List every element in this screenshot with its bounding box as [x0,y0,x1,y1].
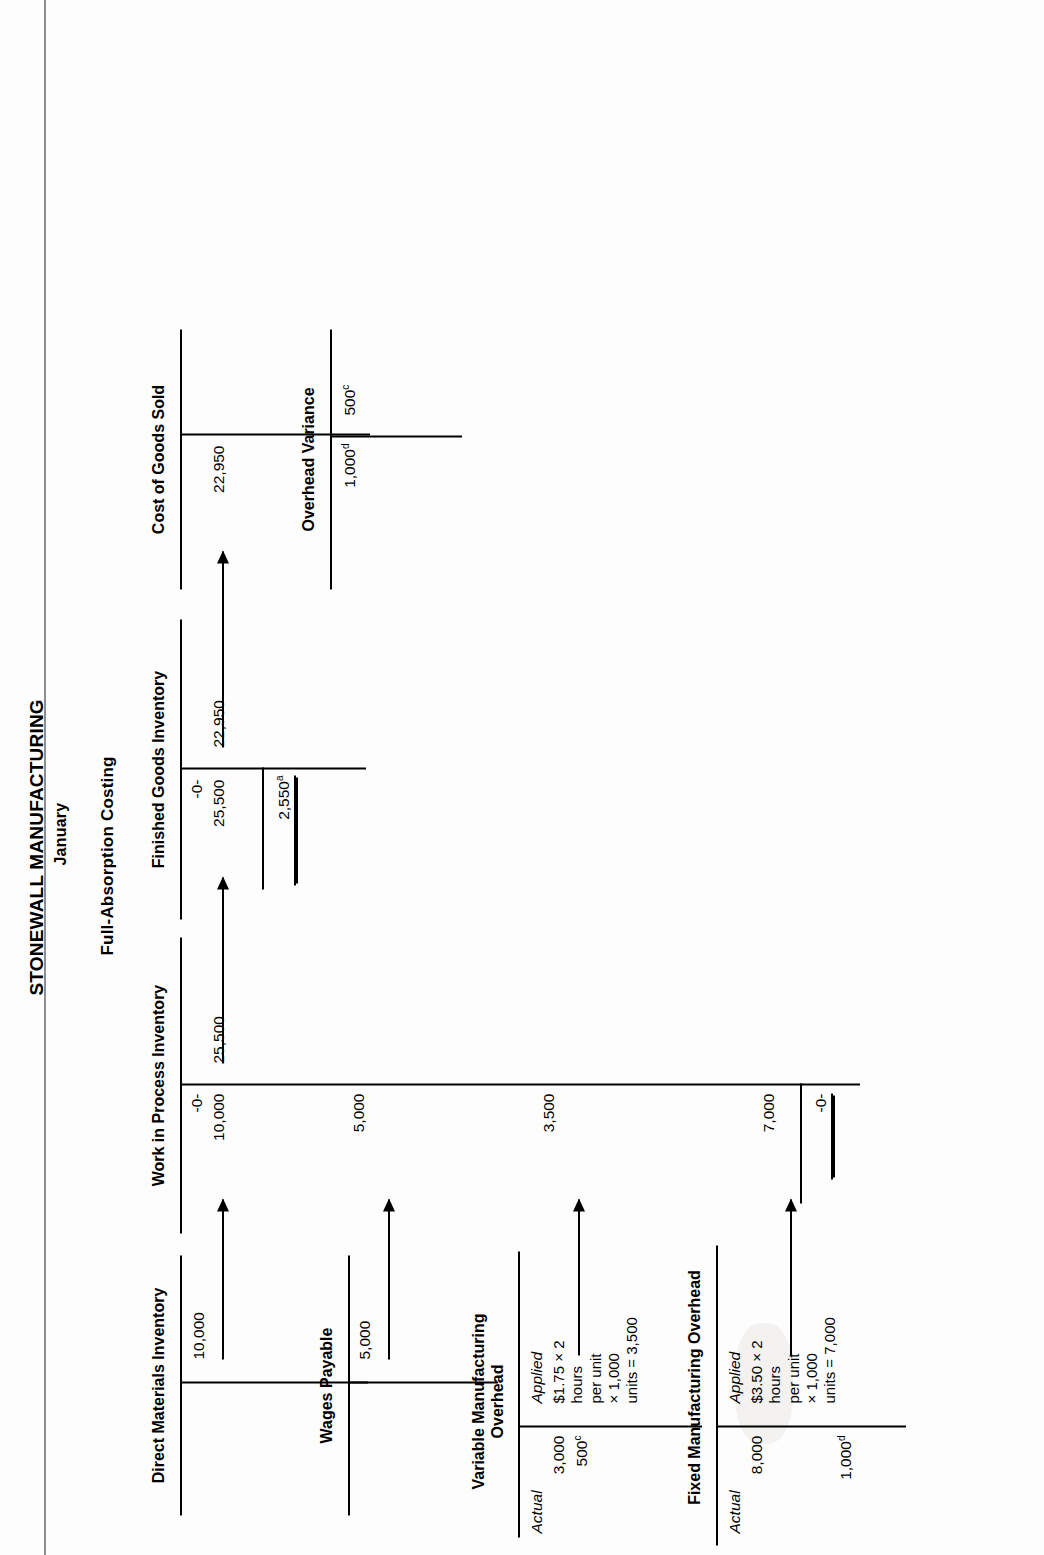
fmoh-variance-value: 1,000 [837,1441,854,1480]
wages-credit-amount: 5,000 [356,1320,374,1359]
flow-arrow-vmoh-to-wip [578,1199,580,1355]
wip-ending-balance: -0- [812,1093,833,1179]
ov-t-stem [330,435,462,437]
vmoh-actual-variance: 500c [572,1435,591,1533]
vmoh-actual-variance-value: 500 [573,1440,590,1466]
fg-ending-balance-note: a [274,775,285,781]
fg-credit-cogs: 22,950 [210,700,228,747]
account-title-cost-of-goods-sold: Cost of Goods Sold [150,329,169,589]
wip-debit-variable-oh: 3,500 [540,1093,558,1179]
fmoh-applied-detail: $3.50 × 2 hours per unit × 1,000 units =… [748,1253,839,1403]
fg-ending-balance: 2,550a [274,775,296,885]
account-title-finished-goods: Finished Goods Inventory [150,619,169,919]
flow-arrow-wages-to-wip [388,1199,390,1359]
flow-arrow-materials-to-wip [222,1199,224,1359]
fmoh-t-stem [716,1425,906,1427]
wip-balance-rule [800,1083,802,1203]
account-title-wages-payable: Wages Payable [318,1255,337,1515]
ov-credit-amount: 500c [340,384,359,415]
fmoh-actual-label: Actual [726,1490,744,1533]
flow-arrow-fmoh-to-wip [790,1199,792,1355]
wages-t-crossbar [348,1255,350,1515]
page-canvas: STONEWALL MANUFACTURING January Full-Abs… [0,0,1044,1555]
vmoh-t-crossbar [518,1251,520,1537]
account-title-variable-moh: Variable Manufacturing Overhead [470,1265,508,1537]
fg-ending-balance-value: 2,550 [275,781,292,820]
dm-credit-amount: 10,000 [190,1312,208,1359]
vmoh-actual-amount: 3,000 [550,1435,568,1533]
diagram-canvas: STONEWALL MANUFACTURING January Full-Abs… [0,0,1044,1555]
dm-t-crossbar [180,1255,182,1515]
account-title-work-in-process: Work in Process Inventory [150,937,169,1233]
wip-credit-transfer: 25,500 [210,1016,228,1063]
costing-method-title: Full-Absorption Costing [98,756,118,955]
vmoh-actual-label: Actual [528,1490,546,1533]
ov-debit-note: d [340,443,351,449]
company-title: STONEWALL MANUFACTURING [26,699,48,995]
flow-arrow-wip-to-fg [222,877,224,1063]
fg-t-stem [180,767,366,769]
fmoh-variance-amount: 1,000d [836,1435,855,1533]
ov-debit-amount: 1,000d [340,443,359,543]
cogs-t-crossbar [180,329,182,589]
vmoh-applied-detail: $1.75 × 2 hours per unit × 1,000 units =… [550,1253,641,1403]
fmoh-actual-amount: 8,000 [748,1435,766,1533]
dm-t-stem [180,1381,368,1383]
ov-credit-value: 500 [341,389,358,415]
period-subtitle: January [52,802,70,865]
ov-debit-value: 1,000 [341,449,358,488]
wip-t-stem [180,1083,860,1085]
fmoh-variance-note: d [836,1435,847,1441]
rotated-content-wrapper: STONEWALL MANUFACTURING January Full-Abs… [0,0,1044,1555]
account-title-fixed-moh: Fixed Manufacturing Overhead [686,1229,705,1545]
account-title-direct-materials: Direct Materials Inventory [150,1255,169,1515]
cogs-debit-amount: 22,950 [210,445,228,533]
vmoh-applied-label: Applied [528,1351,546,1403]
fg-balance-rule [262,767,264,889]
vmoh-t-stem [518,1425,702,1427]
fmoh-t-crossbar [716,1245,718,1545]
fg-beginning-balance: -0- [188,779,206,865]
wip-debit-materials: 10,000 [210,1093,228,1179]
account-title-overhead-variance: Overhead Variance [300,329,319,589]
ov-credit-note: c [340,384,351,389]
wip-debit-fixed-oh: 7,000 [760,1093,778,1179]
wip-debit-labor: 5,000 [350,1093,368,1179]
fg-debit-transfer: 25,500 [210,779,228,865]
wip-beginning-balance: -0- [188,1093,206,1179]
vmoh-actual-variance-note: c [572,1435,583,1440]
fmoh-applied-label: Applied [726,1351,744,1403]
ov-t-crossbar [330,329,332,589]
flow-arrow-fg-to-cogs [222,551,224,747]
